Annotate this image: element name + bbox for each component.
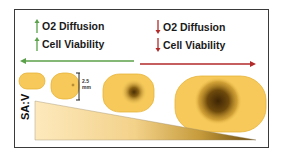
scale-bar-label: 2.5 mm: [82, 79, 91, 90]
right-arrow-icon: [140, 61, 256, 67]
left-arrow-icon: [20, 58, 134, 64]
sav-label: SA:V: [19, 94, 31, 120]
diagram-graphics: [0, 0, 281, 157]
spheroid-smallest: [19, 73, 45, 89]
